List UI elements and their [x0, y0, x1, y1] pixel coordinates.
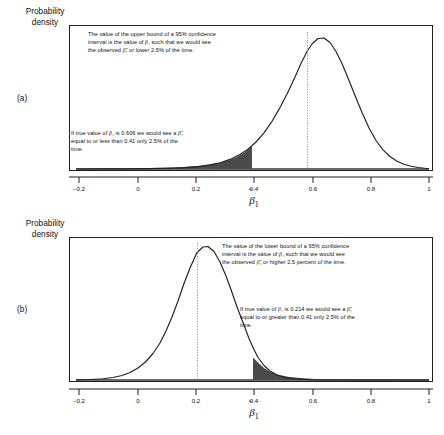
xtick-b-2: 0.2 — [181, 397, 211, 404]
xtick-b-0: –0.2 — [64, 397, 94, 404]
density-curve-b — [0, 0, 444, 435]
annot-b-bot-line1a: If true value of — [240, 306, 278, 312]
x-axis-label-b: ̂β1 — [224, 406, 284, 421]
annotation-lower-bound-b: The value of the lower bound of a 95% co… — [222, 242, 430, 266]
annot-b-bot-line3: time. — [240, 322, 252, 328]
xtick-b-3: 0.4 — [239, 397, 269, 404]
xtick-b-5: 0.8 — [356, 397, 386, 404]
annot-b-top-line3a: the observed — [222, 259, 257, 265]
annot-b-top-line2a: interval is the value of — [222, 251, 279, 257]
annotation-tail-b: If true value of β₁ is 0.214 we would se… — [240, 305, 436, 329]
xtick-b-6: 1 — [414, 397, 444, 404]
annot-b-top-line2b: such that we would see — [284, 251, 345, 257]
annot-b-top-line3b: or higher 2.5 percent of the time. — [261, 259, 345, 265]
annot-b-top-line1: The value of the lower bound of a 95% co… — [222, 243, 349, 249]
annot-b-bot-line2: equal to or greater than 0.41 only 2.5% … — [240, 314, 355, 320]
xtick-b-4: 0.6 — [298, 397, 328, 404]
xtick-b-1: 0 — [123, 397, 153, 404]
annot-b-bot-line1b: is 0.214 we would see a — [283, 306, 347, 312]
annot-b-bot-betahat: β̂₁ — [347, 306, 352, 312]
